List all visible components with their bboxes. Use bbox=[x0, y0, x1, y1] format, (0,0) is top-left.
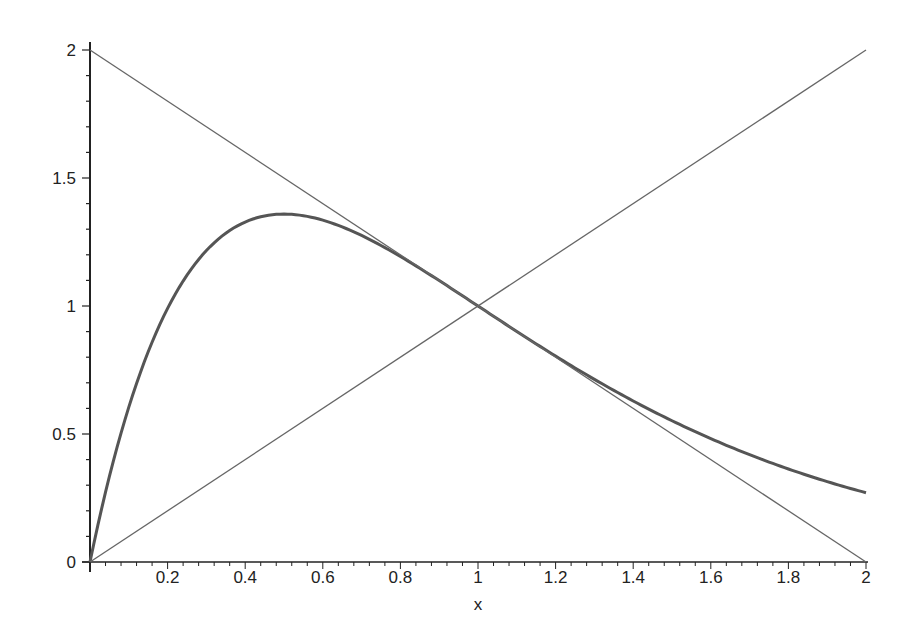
x-tick-label: 2 bbox=[861, 568, 870, 587]
y-tick-label: 1 bbox=[67, 297, 76, 316]
x-tick-label: 0.6 bbox=[311, 568, 335, 587]
x-tick-label: 1 bbox=[473, 568, 482, 587]
x-axis-label: x bbox=[474, 595, 483, 614]
x-tick-label: 0.8 bbox=[389, 568, 413, 587]
y-tick-label: 0 bbox=[67, 553, 76, 572]
y-tick-label: 1.5 bbox=[52, 169, 76, 188]
y-tick-label: 0.5 bbox=[52, 425, 76, 444]
x-tick-label: 0.4 bbox=[233, 568, 257, 587]
x-tick-label: 1.4 bbox=[621, 568, 645, 587]
series-layer bbox=[90, 50, 866, 562]
x-axis-ticks bbox=[106, 562, 866, 569]
curve-series bbox=[90, 214, 866, 562]
x-tick-label: 1.8 bbox=[777, 568, 801, 587]
plot-canvas: 00.511.520.20.40.60.811.21.41.61.82 x bbox=[0, 0, 903, 634]
x-tick-label: 0.2 bbox=[156, 568, 180, 587]
x-tick-label: 1.2 bbox=[544, 568, 568, 587]
y-tick-label: 2 bbox=[67, 41, 76, 60]
x-tick-label: 1.6 bbox=[699, 568, 723, 587]
y-axis-ticks bbox=[82, 50, 90, 562]
